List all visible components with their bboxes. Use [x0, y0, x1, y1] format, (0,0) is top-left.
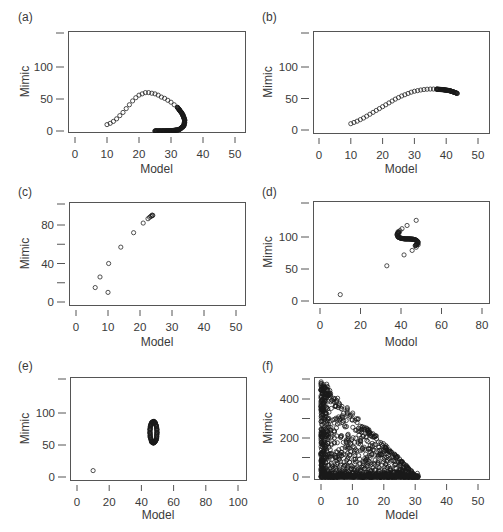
x-tick-label: 50 — [472, 149, 485, 161]
x-tick-label: 10 — [346, 495, 359, 507]
x-tick-label: 20 — [133, 148, 146, 160]
y-axis-title: Mimic — [18, 66, 32, 97]
y-tick-label: 50 — [285, 263, 298, 275]
marker-circle — [124, 107, 128, 111]
y-tick-label: 0 — [49, 471, 55, 483]
marker-circle — [132, 231, 136, 235]
y-tick-label: 0 — [293, 471, 299, 483]
y-tick-label: 50 — [285, 93, 298, 105]
x-tick-label: 30 — [166, 321, 179, 333]
y-axis: 04080 — [41, 204, 65, 308]
x-tick-label: 0 — [318, 495, 324, 507]
x-axis: 01020304050 — [73, 310, 243, 333]
y-tick-label: 100 — [36, 407, 55, 419]
plot-frame — [69, 32, 246, 133]
x-tick-label: 80 — [199, 496, 212, 508]
data-points — [338, 218, 420, 296]
y-axis: 050100 — [34, 33, 64, 137]
y-tick-label: 80 — [41, 219, 54, 231]
marker-circle — [338, 293, 342, 297]
x-tick-label: 0 — [317, 319, 323, 331]
panel-label: (c) — [18, 185, 32, 199]
marker-circle — [414, 218, 418, 222]
x-axis-title: Modol — [385, 335, 418, 349]
x-axis-title: Model — [385, 162, 418, 176]
y-tick-label: 50 — [42, 439, 55, 451]
marker-circle — [402, 253, 406, 257]
x-tick-label: 10 — [101, 148, 114, 160]
marker-circle — [141, 221, 145, 225]
x-tick-label: 10 — [102, 321, 115, 333]
x-tick-label: 0 — [73, 321, 79, 333]
y-tick-label: 40 — [41, 258, 54, 270]
data-points — [319, 380, 420, 479]
y-tick-label: 0 — [47, 125, 53, 137]
x-tick-label: 20 — [103, 496, 116, 508]
x-tick-label: 40 — [135, 496, 148, 508]
x-axis: 01020304050 — [316, 138, 485, 161]
figure: (a)01020304050050100ModelMimic(b)0102030… — [0, 0, 503, 532]
x-tick-label: 0 — [74, 496, 80, 508]
plot-frame — [314, 202, 490, 304]
y-axis-title: Mimic — [18, 413, 32, 444]
x-tick-label: 100 — [228, 496, 247, 508]
x-axis: 020406080100 — [74, 485, 248, 508]
panel-label: (a) — [18, 10, 33, 24]
y-tick-label: 0 — [292, 295, 298, 307]
marker-circle — [98, 275, 102, 279]
panel-c: (c)0102030405004080ModelMimic — [18, 185, 246, 349]
marker-circle — [106, 290, 110, 294]
x-tick-label: 30 — [408, 149, 421, 161]
x-tick-label: 40 — [440, 149, 453, 161]
x-tick-label: 30 — [409, 495, 422, 507]
x-tick-label: 60 — [167, 496, 180, 508]
x-tick-label: 40 — [395, 319, 408, 331]
x-tick-label: 80 — [476, 319, 489, 331]
panel-e: (e)020406080100050100ModelMimic — [18, 359, 248, 522]
panel-label: (d) — [262, 185, 277, 199]
panel-a: (a)01020304050050100ModelMimic — [18, 10, 246, 176]
marker-circle — [366, 440, 370, 444]
y-axis-title: Mimic — [18, 238, 32, 269]
x-tick-label: 20 — [134, 321, 147, 333]
marker-circle — [93, 285, 97, 289]
y-axis-title: Mimic — [261, 236, 275, 267]
y-axis: 050100 — [279, 203, 309, 307]
marker-circle — [91, 469, 95, 473]
marker-circle — [107, 261, 111, 265]
marker-circle — [385, 264, 389, 268]
x-tick-label: 30 — [165, 148, 178, 160]
marker-circle — [405, 223, 409, 227]
y-tick-label: 100 — [279, 231, 298, 243]
data-points — [105, 91, 187, 134]
y-tick-label: 100 — [34, 61, 53, 73]
x-tick-label: 0 — [316, 149, 322, 161]
x-axis-title: Model — [385, 508, 418, 522]
panel-d: (d)020406080050100ModolMimic — [261, 185, 490, 349]
x-tick-label: 10 — [344, 149, 357, 161]
x-tick-label: 50 — [472, 495, 485, 507]
y-tick-label: 0 — [48, 296, 54, 308]
panel-label: (e) — [18, 359, 33, 373]
y-tick-label: 0 — [292, 124, 298, 136]
marker-circle — [410, 248, 414, 252]
data-points — [93, 213, 155, 294]
x-tick-label: 20 — [354, 319, 367, 331]
x-tick-label: 0 — [72, 148, 78, 160]
y-axis: 050100 — [279, 33, 309, 136]
y-axis-title: Mimic — [261, 66, 275, 97]
y-tick-label: 100 — [279, 61, 298, 73]
x-axis-title: Model — [142, 508, 175, 522]
y-tick-label: 50 — [40, 93, 53, 105]
plot-frame — [70, 203, 246, 306]
marker-circle — [121, 110, 125, 114]
x-tick-label: 20 — [376, 149, 389, 161]
plot-frame — [314, 32, 490, 134]
panel-b: (b)01020304050050100ModelMimic — [261, 10, 490, 176]
y-tick-label: 400 — [280, 393, 299, 405]
panel-f: (f)010203040500200400ModelMimic — [261, 359, 490, 522]
x-axis-title: Model — [141, 335, 174, 349]
y-axis-title: Mimic — [261, 412, 275, 443]
y-axis: 0200400 — [280, 379, 310, 483]
x-axis: 01020304050 — [72, 137, 242, 160]
